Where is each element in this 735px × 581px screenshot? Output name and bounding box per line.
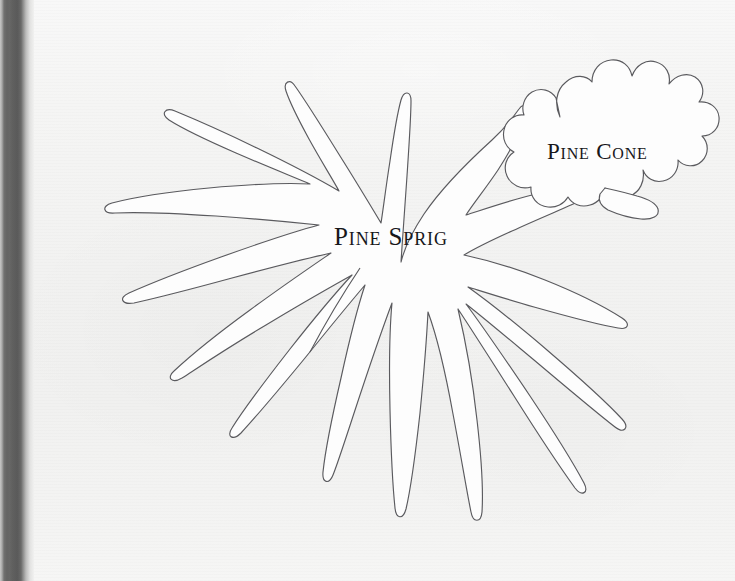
pine-cone-label: Pine Cone	[547, 140, 648, 163]
pine-cone-shape[interactable]	[503, 60, 719, 207]
scanned-pattern-page: Pine Sprig Pine Cone	[0, 0, 735, 581]
template-shapes-layer	[0, 0, 735, 581]
pine-sprig-label: Pine Sprig	[334, 224, 448, 249]
